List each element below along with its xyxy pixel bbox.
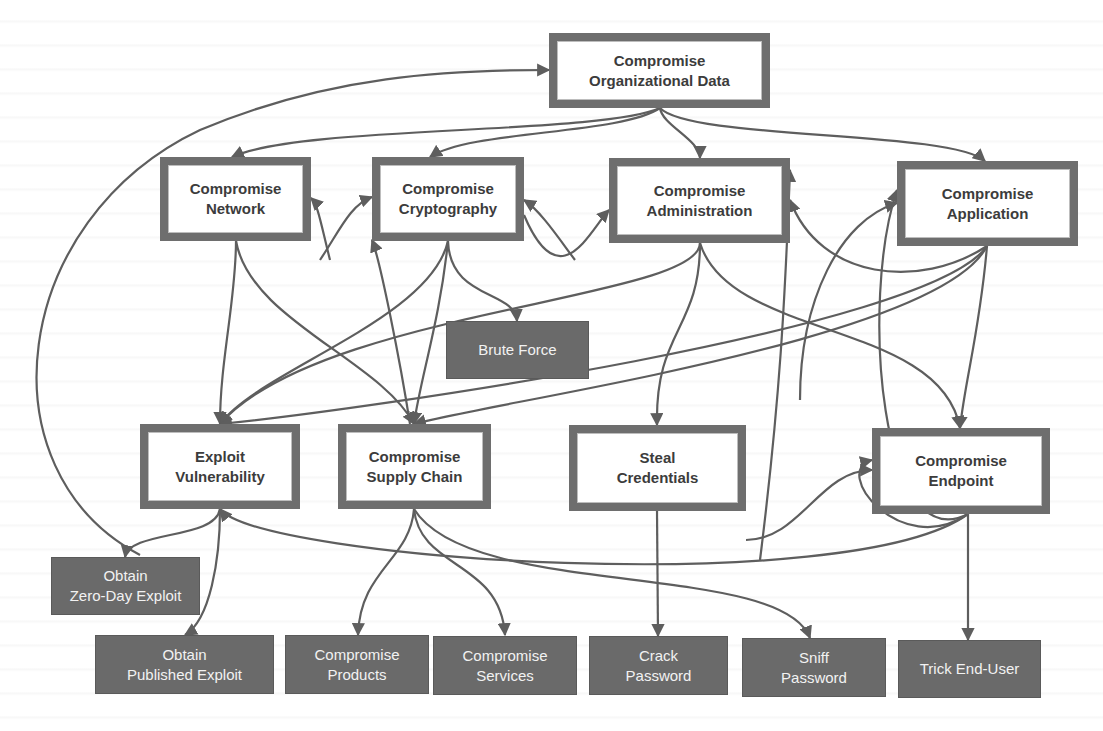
node-label: Compromise Network <box>190 179 282 219</box>
edge-endpoint-exploit <box>220 509 968 564</box>
node-obtain-published-exploit: Obtain Published Exploit <box>95 635 274 694</box>
node-label: Exploit Vulnerability <box>175 447 264 487</box>
node-trick-end-user: Trick End-User <box>898 640 1041 698</box>
edge-crypto-bruteforce <box>448 241 517 321</box>
edge-exploit-zeroday <box>125 509 220 557</box>
node-compromise-products: Compromise Products <box>285 635 429 694</box>
node-compromise-services: Compromise Services <box>433 636 577 695</box>
node-compromise-network: Compromise Network <box>160 157 311 241</box>
node-brute-force: Brute Force <box>446 321 589 379</box>
node-label: Compromise Administration <box>647 181 753 221</box>
node-label: Compromise Cryptography <box>399 179 497 219</box>
node-label: Compromise Products <box>314 645 399 685</box>
node-sniff-password: Sniff Password <box>742 638 886 697</box>
node-label: Crack Password <box>626 646 692 686</box>
node-crack-password: Crack Password <box>589 636 728 695</box>
node-exploit-vulnerability: Exploit Vulnerability <box>140 424 300 509</box>
node-compromise-cryptography: Compromise Cryptography <box>372 157 524 241</box>
node-label: Compromise Application <box>942 184 1034 224</box>
node-label: Obtain Zero-Day Exploit <box>70 566 182 606</box>
node-obtain-zero-day-exploit: Obtain Zero-Day Exploit <box>51 557 200 615</box>
node-label: Sniff Password <box>781 648 847 688</box>
node-label: Compromise Services <box>462 646 547 686</box>
edge-network-supply <box>236 241 414 424</box>
node-label: Steal Credentials <box>617 448 699 488</box>
edge-orgdata-app <box>660 108 985 161</box>
edge-orgdata-admin <box>660 108 700 158</box>
node-compromise-endpoint: Compromise Endpoint <box>872 428 1050 514</box>
node-label: Compromise Supply Chain <box>367 447 463 487</box>
node-compromise-organizational-data: Compromise Organizational Data <box>549 33 770 108</box>
edge-supply-sniff <box>414 509 810 638</box>
node-steal-credentials: Steal Credentials <box>569 425 746 511</box>
node-label: Brute Force <box>478 340 556 360</box>
edge-crypto-network <box>311 198 330 260</box>
edge-orgdata-crypto <box>430 108 660 157</box>
edge-app-endpoint <box>960 246 987 428</box>
edge-app-exploit <box>220 246 987 424</box>
edge-supply-products <box>358 509 414 635</box>
node-compromise-application: Compromise Application <box>897 161 1078 246</box>
edge-network-exploit <box>220 241 236 424</box>
node-label: Obtain Published Exploit <box>127 645 242 685</box>
node-label: Trick End-User <box>920 659 1019 679</box>
node-label: Compromise Endpoint <box>915 451 1007 491</box>
node-compromise-administration: Compromise Administration <box>609 158 790 243</box>
edge-steal-endpoint <box>746 470 872 540</box>
node-compromise-supply-chain: Compromise Supply Chain <box>338 424 491 509</box>
node-label: Compromise Organizational Data <box>589 51 730 91</box>
edge-steal-crack <box>657 511 658 636</box>
edge-supply-services <box>414 509 505 635</box>
edge-supply-crypto <box>372 240 410 424</box>
